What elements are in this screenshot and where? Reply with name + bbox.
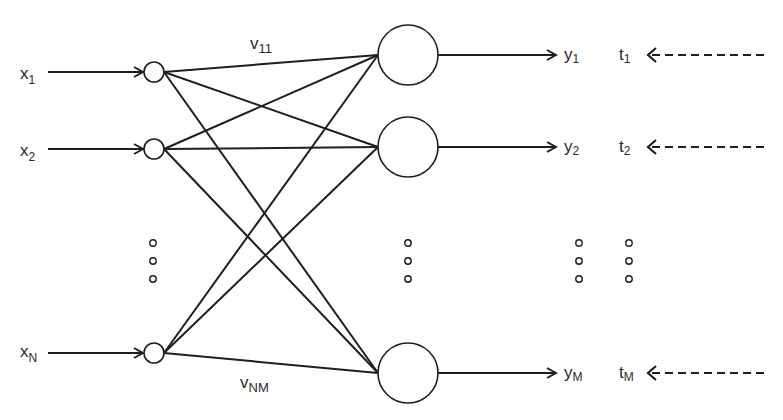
input-label-xN: xN: [20, 342, 37, 365]
output-arrows: [438, 55, 556, 373]
target-arrow-M: [648, 366, 764, 380]
ellipsis-y-labels: [576, 240, 582, 282]
target-label-t2: t2: [619, 137, 631, 158]
output-node-M: [378, 343, 438, 403]
input-node-N: [144, 343, 164, 363]
input-label-x1: x1: [20, 64, 36, 87]
neural-network-diagram: x1 x2 xN v11 vNM y1 y2: [0, 0, 783, 420]
output-label-y1: y1: [564, 45, 580, 66]
input-node-1: [144, 62, 164, 82]
target-arrows: [648, 48, 764, 380]
output-label-y2: y2: [564, 137, 580, 158]
ellipsis-outputs: [405, 240, 411, 282]
output-node-1: [378, 25, 438, 85]
target-arrow-2: [648, 140, 764, 154]
ellipsis-inputs: [150, 240, 156, 282]
output-nodes: [378, 25, 438, 403]
target-label-tM: tM: [619, 363, 634, 384]
input-label-x2: x2: [20, 141, 36, 164]
output-node-2: [378, 117, 438, 177]
ellipsis-t-labels: [626, 240, 632, 282]
weight-label-v11: v11: [250, 34, 272, 56]
input-nodes: [144, 62, 164, 363]
target-arrow-1: [648, 48, 764, 62]
ellipsis-dots: [150, 240, 632, 282]
input-node-2: [144, 139, 164, 159]
input-arrows: [48, 72, 143, 353]
weight-label-vNM: vNM: [240, 373, 269, 395]
target-label-t1: t1: [619, 45, 631, 66]
weight-connections: [164, 55, 378, 373]
output-label-yM: yM: [564, 363, 583, 384]
